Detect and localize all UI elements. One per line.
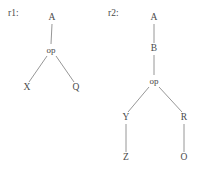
tree-node-r2-r: R (181, 113, 187, 123)
tree-node-r2-y: Y (123, 113, 130, 123)
tree-rewrite-rule-diagram: r1: A op X Q r2: A B op Y R Z O (0, 0, 199, 172)
tree-edge-r1-op-to-r1-q (56, 56, 74, 82)
tree-node-r2-b: B (151, 44, 157, 54)
tree-node-r2-o: O (181, 153, 188, 163)
tree-edge-r2-op-to-r2-r (159, 87, 182, 112)
tree-edge-r2-op-to-r2-y (128, 87, 149, 112)
tree-node-r1-q: Q (73, 83, 80, 93)
tree-node-r1-a: A (49, 13, 56, 23)
tree-node-r2-a: A (151, 13, 158, 23)
tree-node-r2-z: Z (123, 153, 129, 163)
tree-label-r1: r1: (8, 9, 19, 19)
tree-label-r2: r2: (108, 9, 119, 19)
tree-edge-r1-op-to-r1-x (29, 56, 47, 82)
tree-node-r1-op: op (46, 46, 55, 55)
tree-node-r2-op: op (149, 77, 158, 86)
tree-edge-r1-a-to-r1-op (51, 24, 52, 44)
tree-node-r1-x: X (24, 83, 31, 93)
